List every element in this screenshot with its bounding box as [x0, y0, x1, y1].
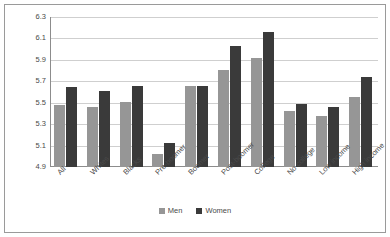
- bar-women-all: [66, 87, 77, 167]
- bar-men-post-boomer: [218, 70, 229, 168]
- y-tick-label: 5.5: [6, 99, 46, 107]
- bar-group: [116, 17, 149, 167]
- legend-item-women: Women: [196, 206, 231, 215]
- bar-group: [50, 17, 83, 167]
- legend-label: Men: [168, 206, 183, 215]
- bar-men-no-college: [284, 111, 295, 167]
- bar-men-college: [251, 58, 262, 167]
- bar-group: [312, 17, 345, 167]
- bar-chart-figure: Attitude on gender roles 4.95.15.35.55.7…: [0, 0, 390, 237]
- bar-men-whites: [87, 107, 98, 167]
- legend-item-men: Men: [159, 206, 183, 215]
- bar-group: [214, 17, 247, 167]
- bar-women-college: [263, 32, 274, 167]
- bar-men-high-income: [349, 97, 360, 167]
- bar-group: [148, 17, 181, 167]
- legend-swatch-icon: [196, 208, 202, 214]
- y-tick-label: 6.1: [6, 35, 46, 43]
- y-tick-label: 5.3: [6, 120, 46, 128]
- bar-group: [280, 17, 313, 167]
- bars-layer: [50, 17, 378, 167]
- bar-men-boomer: [185, 86, 196, 167]
- bar-group: [181, 17, 214, 167]
- y-tick-label: 5.9: [6, 56, 46, 64]
- bar-men-blacks: [120, 102, 131, 167]
- chart-legend: MenWomen: [0, 206, 390, 215]
- bar-group: [345, 17, 378, 167]
- legend-swatch-icon: [159, 208, 165, 214]
- bar-men-low-income: [316, 116, 327, 167]
- legend-label: Women: [205, 206, 231, 215]
- y-tick-label: 4.9: [6, 163, 46, 171]
- y-axis-title: Attitude on gender roles: [0, 0, 6, 14]
- y-tick-label: 6.3: [6, 13, 46, 21]
- bar-group: [83, 17, 116, 167]
- y-tick-label: 5.7: [6, 78, 46, 86]
- bar-men-all: [54, 105, 65, 167]
- y-tick-label: 5.1: [6, 142, 46, 150]
